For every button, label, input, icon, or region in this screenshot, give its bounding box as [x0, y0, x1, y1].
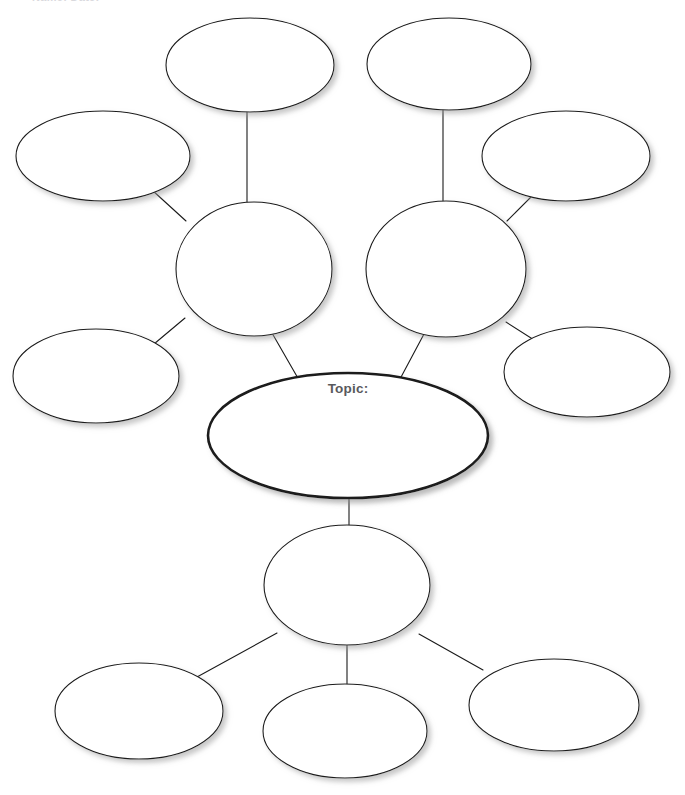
node-leaf-top-right[interactable] — [367, 18, 531, 110]
node-leaf-far-left[interactable] — [16, 111, 190, 201]
node-leaf-bottom-right[interactable] — [469, 659, 639, 751]
node-leaf-top-left[interactable] — [166, 18, 334, 112]
concept-map-svg — [0, 0, 685, 795]
connector-line — [400, 334, 424, 379]
node-hub-bottom[interactable] — [264, 525, 430, 645]
node-leaf-bottom-left[interactable] — [55, 663, 223, 759]
node-leaf-lower-left[interactable] — [13, 329, 179, 423]
connector-line — [197, 633, 277, 677]
node-leaf-mid-right[interactable] — [504, 327, 670, 417]
node-leaf-far-right[interactable] — [482, 111, 650, 201]
connector-line — [419, 634, 483, 670]
concept-map-canvas: Name: Date: Topic: — [0, 0, 685, 795]
node-hub-left[interactable] — [176, 202, 332, 336]
node-hub-right[interactable] — [366, 201, 526, 337]
node-leaf-bottom-mid[interactable] — [263, 684, 427, 778]
topic-label: Topic: — [208, 381, 488, 396]
connector-line — [154, 318, 185, 344]
connector-line — [152, 190, 186, 221]
connector-line — [272, 333, 299, 380]
